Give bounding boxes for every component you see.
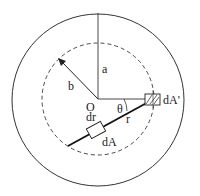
- angle-arc: [124, 99, 127, 111]
- label-dr: dr: [86, 110, 96, 124]
- label-dA-prime: dA': [163, 93, 180, 107]
- area-element-dA-prime-box: [145, 90, 160, 108]
- label-r: r: [126, 112, 130, 126]
- label-dA: dA: [102, 135, 117, 149]
- diagram-canvas: a b O θ r dr dA dA': [0, 0, 200, 196]
- label-a: a: [102, 62, 108, 76]
- label-b: b: [68, 79, 74, 93]
- label-theta: θ: [117, 102, 123, 116]
